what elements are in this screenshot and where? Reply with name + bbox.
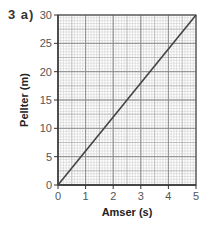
y-tick-label: 30 bbox=[40, 9, 52, 21]
x-tick-label: 4 bbox=[165, 190, 171, 202]
x-tick-label: 2 bbox=[110, 190, 116, 202]
y-tick-label: 10 bbox=[40, 122, 52, 134]
y-tick-label: 15 bbox=[40, 94, 52, 106]
y-axis-title: Pellter (m) bbox=[18, 73, 30, 127]
y-tick-label: 5 bbox=[46, 151, 52, 163]
x-tick-label: 0 bbox=[55, 190, 61, 202]
y-tick-label: 20 bbox=[40, 66, 52, 78]
x-tick-label: 5 bbox=[193, 190, 199, 202]
y-tick-label: 25 bbox=[40, 37, 52, 49]
x-tick-label: 1 bbox=[83, 190, 89, 202]
x-axis-title: Amser (s) bbox=[102, 206, 153, 218]
distance-time-chart: 012345051015202530 Amser (s) Pellter (m) bbox=[0, 0, 207, 231]
x-tick-label: 3 bbox=[138, 190, 144, 202]
y-tick-label: 0 bbox=[46, 179, 52, 191]
